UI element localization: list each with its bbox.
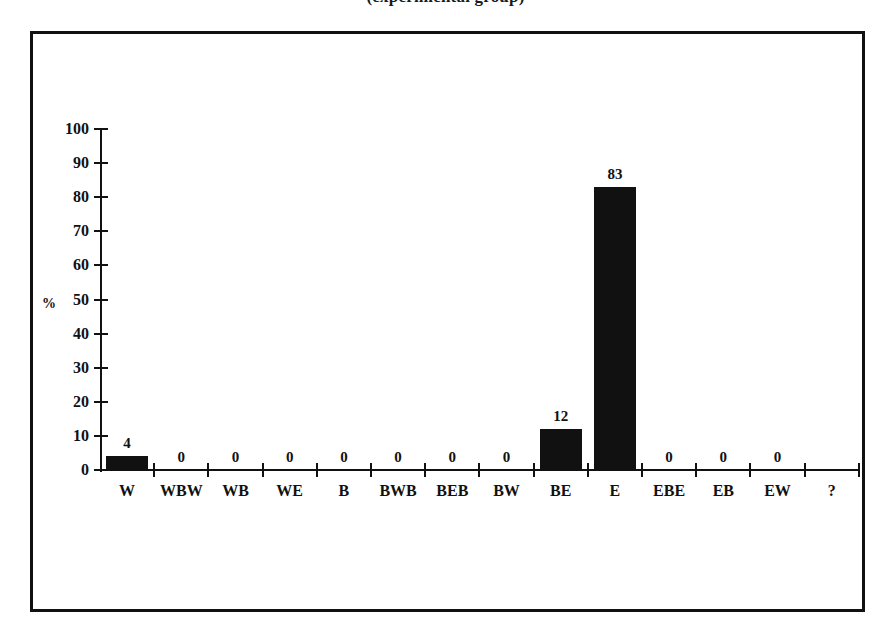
- figure-title: (experimental group): [0, 0, 891, 7]
- bar-value-label: 12: [531, 409, 591, 424]
- y-axis-tick-label: 60: [43, 257, 89, 273]
- y-axis-tick: [94, 162, 108, 164]
- bar-value-label: 0: [260, 450, 320, 465]
- bar: [594, 187, 636, 470]
- bar: [106, 456, 148, 470]
- x-axis-tick: [424, 463, 426, 477]
- bar: [540, 429, 582, 470]
- x-axis-tick: [316, 463, 318, 477]
- y-axis-tick: [94, 264, 108, 266]
- bar-value-label: 83: [585, 167, 645, 182]
- x-axis-tick: [587, 463, 589, 477]
- y-axis-tick-label: 70: [43, 223, 89, 239]
- bar-value-label: 0: [206, 450, 266, 465]
- y-axis-tick-label: 20: [43, 394, 89, 410]
- y-axis-tick-label: 80: [43, 189, 89, 205]
- y-axis-tick-label: 90: [43, 155, 89, 171]
- x-axis-tick: [207, 463, 209, 477]
- y-axis-tick: [94, 230, 108, 232]
- y-axis-tick: [94, 367, 108, 369]
- chart-frame: % 1009080706050403020100 WWBWWBWEBBWBBEB…: [30, 31, 865, 612]
- x-axis-tick: [749, 463, 751, 477]
- x-axis-tick-label: ?: [797, 483, 867, 499]
- y-axis-tick-label: 10: [43, 428, 89, 444]
- x-axis-tick: [370, 463, 372, 477]
- y-axis-tick-label: 30: [43, 360, 89, 376]
- y-axis-tick-label: 40: [43, 326, 89, 342]
- x-axis-tick: [641, 463, 643, 477]
- y-axis-tick-label: 0: [43, 462, 89, 478]
- x-axis-tick: [262, 463, 264, 477]
- bar-value-label: 0: [368, 450, 428, 465]
- y-axis-tick: [94, 196, 108, 198]
- x-axis-tick: [804, 463, 806, 477]
- bar-value-label: 0: [639, 450, 699, 465]
- bar-value-label: 4: [97, 436, 157, 451]
- bar-value-label: 0: [151, 450, 211, 465]
- bar-value-label: 0: [748, 450, 808, 465]
- figure-page: (experimental group) % 10090807060504030…: [0, 0, 891, 629]
- y-axis-tick-label: 100: [43, 121, 89, 137]
- bar-value-label: 0: [314, 450, 374, 465]
- y-axis-tick-label: 50: [43, 292, 89, 308]
- x-axis-tick: [533, 463, 535, 477]
- plot-area: % 1009080706050403020100 WWBWWBWEBBWBBEB…: [33, 34, 862, 609]
- x-axis-tick: [858, 463, 860, 477]
- x-axis-tick: [695, 463, 697, 477]
- x-axis-tick: [478, 463, 480, 477]
- x-axis-tick: [153, 463, 155, 477]
- y-axis-tick: [94, 128, 108, 130]
- y-axis-tick: [94, 299, 108, 301]
- y-axis-tick: [94, 401, 108, 403]
- bar-value-label: 0: [477, 450, 537, 465]
- bar-value-label: 0: [422, 450, 482, 465]
- bar-value-label: 0: [693, 450, 753, 465]
- y-axis-tick: [94, 333, 108, 335]
